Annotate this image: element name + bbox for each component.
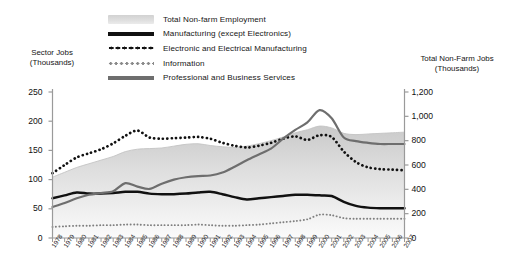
right-tick-label-200: 200 [412,208,444,218]
left-tick-label-50: 50 [17,203,43,213]
right-tick-label-400: 400 [412,184,444,194]
employment-chart: Total Non-farm Employment Manufacturing … [0,0,516,276]
left-tick-label-200: 200 [17,116,43,126]
left-tick-label-250: 250 [17,87,43,97]
right-tick-label-600: 600 [412,160,444,170]
right-tick-label-1,000: 1,000 [412,111,444,121]
left-tick-label-100: 100 [17,174,43,184]
area-total-nonfarm-employment [53,126,405,238]
left-tick-label-0: 0 [17,233,43,243]
right-tick-label-0: 0 [412,233,444,243]
left-tick-label-150: 150 [17,145,43,155]
right-tick-label-800: 800 [412,135,444,145]
right-tick-label-1,200: 1,200 [412,87,444,97]
